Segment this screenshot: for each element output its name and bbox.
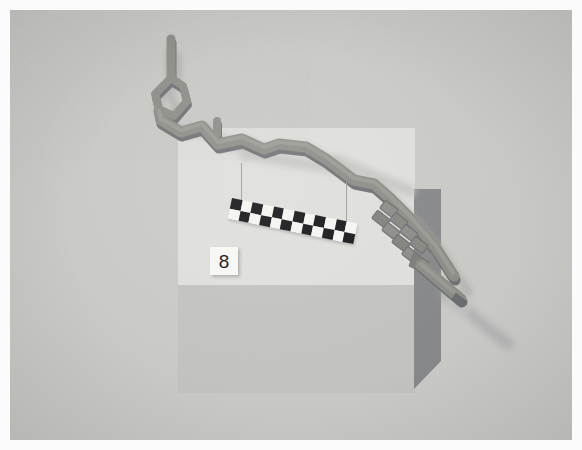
specimen-number-card: 8 bbox=[210, 247, 238, 275]
photographed-scene: 8 bbox=[10, 10, 572, 440]
specimen-number-text: 8 bbox=[219, 252, 230, 271]
scalebar-wire-right bbox=[346, 182, 347, 224]
tail-cast-shadow bbox=[440, 292, 508, 344]
scalebar-wire-left bbox=[241, 163, 242, 200]
model-top-faces bbox=[155, 39, 454, 276]
model-cast-shadow bbox=[157, 52, 468, 292]
scale-square bbox=[343, 232, 356, 244]
photograph: 8 bbox=[0, 0, 582, 450]
